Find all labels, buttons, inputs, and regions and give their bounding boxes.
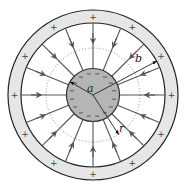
field-arrow-icon <box>143 71 150 74</box>
label-a: a <box>87 82 94 95</box>
field-line <box>65 119 82 161</box>
plus-sign: + <box>89 169 97 179</box>
label-b: b <box>135 52 142 65</box>
plus-sign: + <box>157 51 165 61</box>
field-line <box>117 67 159 84</box>
field-arrow-icon <box>69 145 72 152</box>
plus-sign: + <box>157 129 165 139</box>
plus-sign: + <box>21 129 29 139</box>
field-arrow-icon <box>114 145 117 152</box>
field-arrow-icon <box>69 38 72 45</box>
plus-sign: + <box>128 22 136 32</box>
field-line <box>112 114 144 146</box>
field-arrow-icon <box>36 116 43 119</box>
plus-sign: + <box>89 12 97 22</box>
plus-sign: + <box>21 51 29 61</box>
plus-sign: + <box>128 158 136 168</box>
field-line <box>65 28 82 70</box>
field-line <box>26 67 68 84</box>
spherical-capacitor-diagram: ++++++++++++ a b r <box>0 0 184 188</box>
plus-sign: + <box>50 158 58 168</box>
field-arrow-icon <box>114 38 117 45</box>
field-line <box>42 114 74 146</box>
field-arrow-icon <box>131 133 137 139</box>
label-r: r <box>119 122 125 135</box>
field-arrow-icon <box>143 116 150 119</box>
field-line <box>26 105 68 122</box>
field-arrow-icon <box>49 51 55 57</box>
field-line <box>42 44 74 76</box>
field-arrow-icon <box>49 133 55 139</box>
plus-sign: + <box>50 22 58 32</box>
field-arrow-icon <box>36 71 43 74</box>
plus-sign: + <box>11 90 19 100</box>
plus-sign: + <box>168 90 176 100</box>
